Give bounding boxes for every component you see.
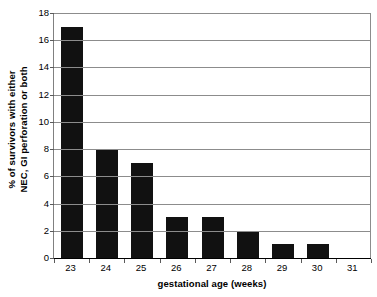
x-axis-tick-label: 29 — [277, 262, 288, 274]
x-axis-tick-label: 31 — [347, 262, 358, 274]
bar — [202, 217, 224, 258]
y-axis-tick-mark — [50, 95, 54, 96]
gridline — [54, 149, 371, 150]
gridline — [54, 204, 371, 205]
x-axis-tick-label: 27 — [206, 262, 217, 274]
y-axis-title-line-2: NEC, GI perforation or both — [17, 66, 29, 192]
x-axis-title: gestational age (weeks) — [53, 278, 371, 290]
x-axis-tick-label: 23 — [65, 262, 76, 274]
y-axis-tick-label: 10 — [38, 117, 49, 127]
y-axis-tick-label: 12 — [38, 90, 49, 100]
x-axis-tick-label: 28 — [241, 262, 252, 274]
bar — [61, 27, 83, 258]
bar — [272, 244, 294, 258]
gridline — [54, 122, 371, 123]
bar — [166, 217, 188, 258]
y-axis-tick-label: 2 — [44, 226, 49, 236]
y-axis-tick-mark — [50, 40, 54, 41]
y-axis-tick-label: 4 — [44, 199, 49, 209]
y-axis-tick-label: 6 — [44, 171, 49, 181]
x-axis-tick-label: 25 — [136, 262, 147, 274]
y-axis-title-line-1: % of survivors with either — [6, 66, 18, 192]
y-axis-tick-labels: 024681012141618 — [30, 0, 49, 297]
gridline — [54, 40, 371, 41]
bar — [307, 244, 329, 258]
y-axis-title: % of survivors with either NEC, GI perfo… — [4, 0, 30, 258]
y-axis-tick-label: 18 — [38, 8, 49, 18]
gridline — [54, 231, 371, 232]
y-axis-tick-mark — [50, 67, 54, 68]
bars-layer — [54, 13, 371, 258]
x-axis-tick-label: 26 — [171, 262, 182, 274]
bar-chart: % of survivors with either NEC, GI perfo… — [0, 0, 377, 297]
y-axis-tick-mark — [50, 231, 54, 232]
y-axis-tick-label: 14 — [38, 62, 49, 72]
bar — [237, 231, 259, 258]
x-axis-tick-mark — [371, 259, 372, 263]
y-axis-tick-mark — [50, 149, 54, 150]
y-axis-tick-label: 0 — [44, 253, 49, 263]
y-axis-tick-label: 8 — [44, 144, 49, 154]
plot-area — [53, 13, 371, 259]
y-axis-tick-mark — [50, 122, 54, 123]
gridline — [54, 95, 371, 96]
y-axis-tick-mark — [50, 204, 54, 205]
x-axis-tick-label: 24 — [101, 262, 112, 274]
y-axis-tick-mark — [50, 13, 54, 14]
y-axis-tick-label: 16 — [38, 35, 49, 45]
y-axis-tick-mark — [50, 176, 54, 177]
x-axis-tick-labels: 232425262728293031 — [53, 262, 371, 276]
x-axis-tick-label: 30 — [312, 262, 323, 274]
gridline — [54, 67, 371, 68]
gridline — [54, 176, 371, 177]
